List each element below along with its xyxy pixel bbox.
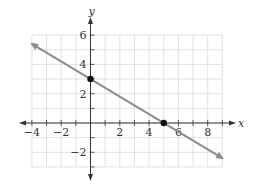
y-tick-label: 6 xyxy=(80,29,87,42)
data-line xyxy=(30,43,224,159)
axes xyxy=(19,17,236,181)
y-intercept-point xyxy=(87,76,93,82)
x-axis-label: x xyxy=(238,117,245,130)
y-axis-up-arrow-icon xyxy=(88,17,93,24)
x-intercept-point xyxy=(161,120,167,126)
x-tick-label: 2 xyxy=(116,126,123,139)
y-tick-label: −2 xyxy=(70,146,86,159)
x-axis-left-arrow-icon xyxy=(19,121,26,126)
x-axis-right-arrow-icon xyxy=(229,121,236,126)
y-tick-label: 2 xyxy=(80,88,87,101)
series-line xyxy=(32,44,222,158)
y-tick-label: 4 xyxy=(80,58,87,71)
y-axis-label: y xyxy=(88,5,96,18)
y-axis-down-arrow-icon xyxy=(88,174,93,181)
coordinate-plane-chart: −4−22468−2246 x y xyxy=(0,0,255,186)
x-tick-label: −2 xyxy=(53,126,69,139)
x-tick-label: 8 xyxy=(204,126,211,139)
x-tick-label: −4 xyxy=(24,126,40,139)
x-tick-label: 4 xyxy=(146,126,153,139)
